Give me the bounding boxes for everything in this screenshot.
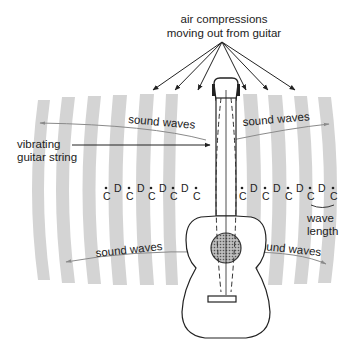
title-line-2: moving out from guitar bbox=[167, 27, 282, 39]
wavelength-label-1: wave bbox=[306, 212, 334, 224]
svg-text:C: C bbox=[148, 190, 156, 202]
svg-text:D: D bbox=[181, 182, 189, 194]
svg-text:C: C bbox=[285, 190, 293, 202]
vibrating-string-label-1: vibrating bbox=[17, 138, 60, 150]
svg-text:C: C bbox=[193, 190, 201, 202]
svg-text:D: D bbox=[318, 182, 326, 194]
svg-text:D: D bbox=[114, 182, 122, 194]
wavelength-label-2: length bbox=[307, 225, 338, 237]
sound-waves-label-bottom-left: sound waves bbox=[95, 240, 163, 259]
svg-text:D: D bbox=[250, 182, 258, 194]
svg-text:C: C bbox=[239, 190, 247, 202]
svg-text:D: D bbox=[296, 182, 304, 194]
guitar-sound-waves-diagram: air compressions moving out from guitar … bbox=[0, 0, 350, 345]
svg-text:C: C bbox=[330, 190, 338, 202]
svg-text:C: C bbox=[103, 190, 111, 202]
svg-text:C: C bbox=[126, 190, 134, 202]
title-line-1: air compressions bbox=[181, 13, 268, 25]
svg-text:D: D bbox=[273, 182, 281, 194]
svg-text:D: D bbox=[159, 182, 167, 194]
svg-text:C: C bbox=[307, 190, 315, 202]
svg-text:C: C bbox=[170, 190, 178, 202]
vibrating-string-label-2: guitar string bbox=[17, 151, 77, 163]
svg-text:D: D bbox=[137, 182, 145, 194]
svg-text:C: C bbox=[262, 190, 270, 202]
